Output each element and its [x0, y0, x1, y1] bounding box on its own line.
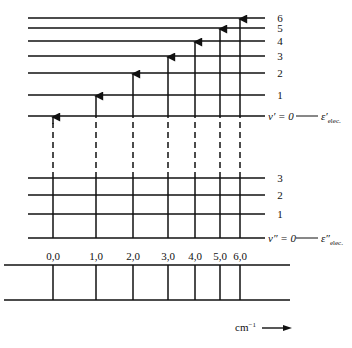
lower-electronic-energy-label: ε″elec. — [321, 232, 343, 247]
upper-level-label: 5 — [277, 22, 283, 34]
lower-level-label: 3 — [277, 172, 283, 184]
spectral-line-label: 4,0 — [188, 250, 202, 262]
upper-electronic-energy-label: ε′elec. — [321, 110, 341, 125]
lower-ground-label: v″ = 0 — [268, 232, 296, 244]
spectral-line-label: 1,0 — [89, 250, 103, 262]
spectral-line-label: 0,0 — [46, 250, 60, 262]
spectrum-band: 0,01,02,03,04,05,06,0cm−1 — [4, 250, 292, 333]
upper-ground-label: v′ = 0 — [268, 110, 294, 122]
spectral-line-label: 2,0 — [126, 250, 140, 262]
lower-level-label: 2 — [277, 189, 283, 201]
lower-state-levels: 321v″ = 0ε″elec. — [28, 172, 343, 247]
upper-state-levels: 654321v′ = 0ε′elec. — [28, 12, 341, 125]
upper-level-label: 1 — [277, 89, 283, 101]
wavenumber-axis-label: cm−1 — [235, 321, 256, 333]
transition-arrows — [53, 19, 240, 238]
spectral-line-label: 6,0 — [233, 250, 247, 262]
vibronic-transition-diagram: 654321v′ = 0ε′elec. 321v″ = 0ε″elec. 0,0… — [0, 0, 352, 348]
upper-level-label: 2 — [277, 67, 283, 79]
spectral-line-label: 3,0 — [161, 250, 175, 262]
upper-level-label: 3 — [277, 50, 283, 62]
arrow-head-icon — [283, 325, 292, 331]
lower-level-label: 1 — [277, 208, 283, 220]
upper-level-label: 4 — [277, 35, 283, 47]
spectral-line-label: 5,0 — [213, 250, 227, 262]
